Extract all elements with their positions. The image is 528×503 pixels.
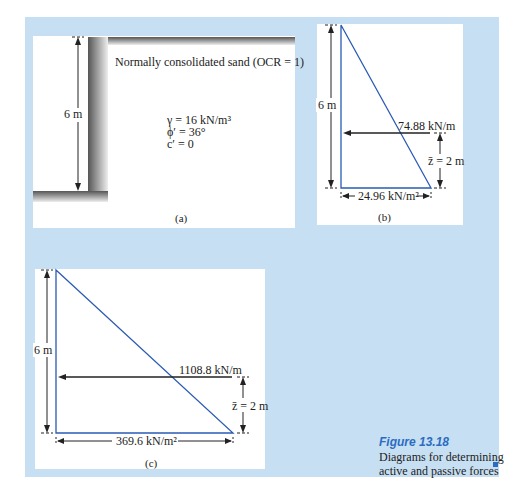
panel-c-label: (c) <box>145 457 158 470</box>
panel-c-text: 6 m 1108.8 kN/m z̄ = 2 m 369.6 kN/m² (c) <box>0 0 528 503</box>
figure-caption: Diagrams for determining active and pass… <box>379 450 509 478</box>
panel-c-force-label: 1108.8 kN/m <box>179 363 243 377</box>
end-marker-icon <box>493 462 498 467</box>
panel-c-height-label: 6 m <box>34 343 53 357</box>
panel-c-zbar-label: z̄ = 2 m <box>232 399 269 413</box>
panel-c-base-label: 369.6 kN/m² <box>116 434 177 448</box>
figure-number: Figure 13.18 <box>379 435 449 449</box>
